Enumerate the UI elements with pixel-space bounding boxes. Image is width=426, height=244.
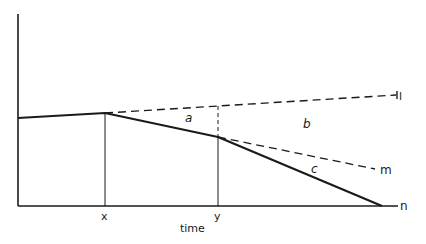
x-tick-label-y: y (214, 210, 221, 223)
region-label-b: b (303, 117, 311, 131)
region-label-c: c (311, 162, 318, 176)
region-label-a: a (185, 111, 192, 125)
line-label-l: l (399, 90, 402, 103)
time-diagram: a b c l m n x y time (0, 0, 426, 244)
x-axis-title: time (180, 222, 205, 235)
projection-line-l (105, 95, 396, 113)
projection-line-m (218, 137, 375, 169)
line-label-m: m (380, 163, 392, 177)
x-tick-label-x: x (101, 210, 108, 223)
line-label-n: n (400, 199, 408, 213)
